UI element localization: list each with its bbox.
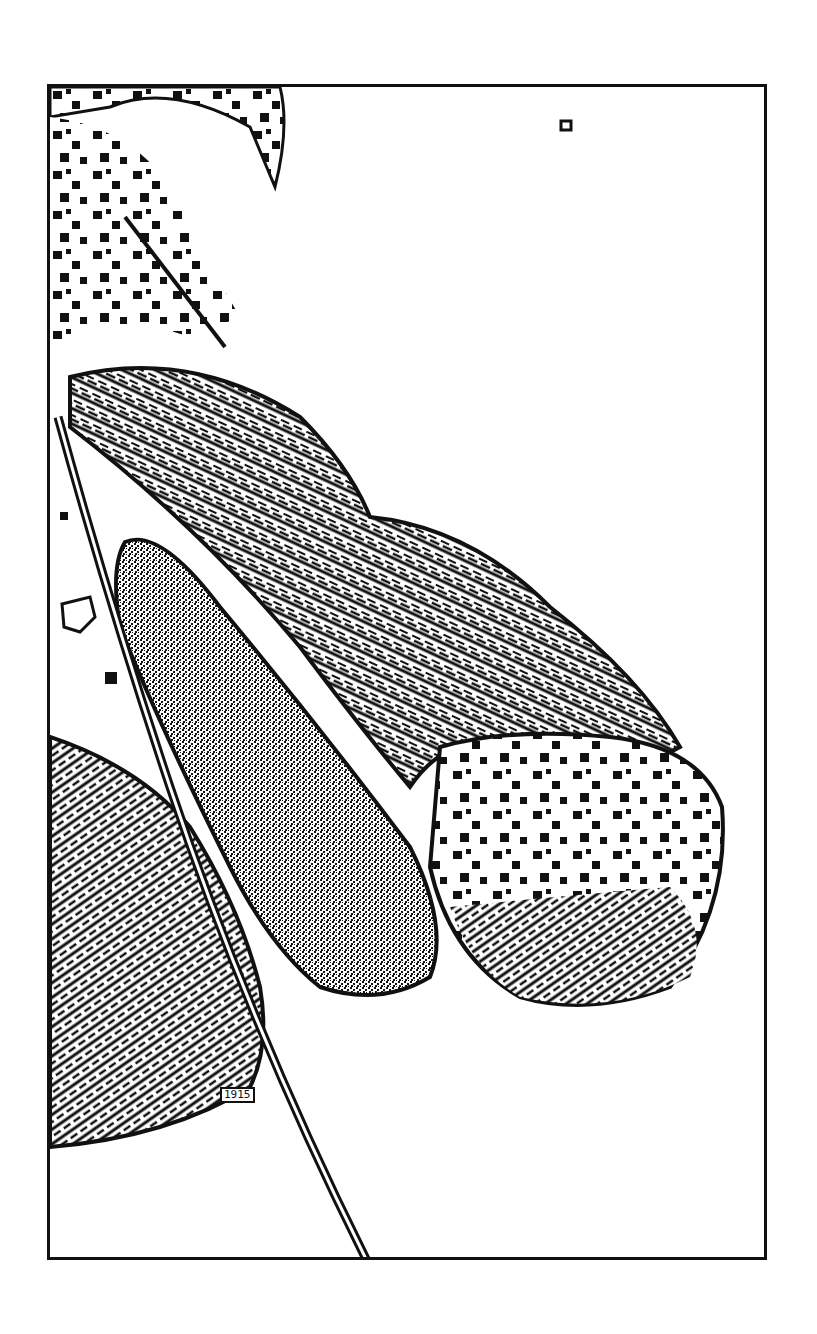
image-frame: 1915 xyxy=(47,84,767,1260)
stamp-mark: 1915 xyxy=(220,1087,255,1103)
leaf-line-art xyxy=(50,87,767,1260)
